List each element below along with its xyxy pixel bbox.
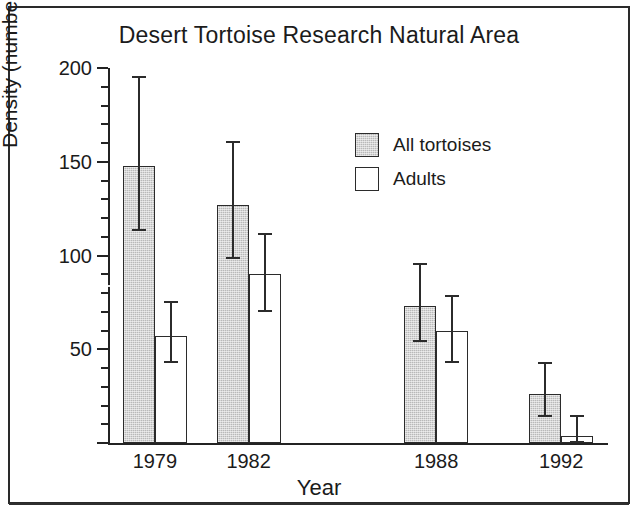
y-axis-minor-tick bbox=[101, 405, 108, 407]
error-bar-cap-upper bbox=[445, 295, 459, 297]
legend-item-adults: Adults bbox=[355, 162, 565, 196]
error-bar-line bbox=[264, 233, 266, 310]
y-axis-major-tick bbox=[97, 161, 108, 163]
legend-item-label: Adults bbox=[393, 168, 446, 190]
y-axis-minor-tick bbox=[101, 367, 108, 369]
y-axis-tick-label: 50 bbox=[70, 338, 92, 361]
error-bar-line bbox=[451, 295, 453, 361]
error-bar-cap-upper bbox=[413, 263, 427, 265]
error-bar-line bbox=[138, 76, 140, 230]
y-axis-minor-tick bbox=[101, 198, 108, 200]
y-axis-tick-label: 200 bbox=[59, 57, 92, 80]
error-bar-cap-lower bbox=[164, 361, 178, 363]
scan-artifact-line bbox=[108, 285, 608, 287]
chart-figure: Desert Tortoise Research Natural Area 50… bbox=[0, 0, 638, 514]
error-bar-cap-lower bbox=[538, 415, 552, 417]
chart-legend: All tortoisesAdults bbox=[355, 128, 565, 196]
error-bar-cap-upper bbox=[132, 76, 146, 78]
y-axis-major-tick bbox=[97, 255, 108, 257]
y-axis-minor-tick bbox=[101, 180, 108, 182]
error-bar-line bbox=[170, 301, 172, 361]
error-bar-line bbox=[576, 415, 578, 441]
error-bar-cap-upper bbox=[258, 233, 272, 235]
error-bar-cap-lower bbox=[132, 229, 146, 231]
error-bar-line bbox=[544, 362, 546, 415]
y-axis-major-tick bbox=[97, 442, 108, 444]
y-axis-minor-tick bbox=[101, 423, 108, 425]
y-axis-major-tick bbox=[97, 67, 108, 69]
y-axis-tick-label: 150 bbox=[59, 150, 92, 173]
y-axis-minor-tick bbox=[101, 273, 108, 275]
x-axis-tick-label: 1988 bbox=[414, 450, 459, 473]
y-axis-minor-tick bbox=[101, 217, 108, 219]
y-axis-minor-tick bbox=[101, 105, 108, 107]
x-axis-tick-label: 1992 bbox=[539, 450, 584, 473]
error-bar-cap-upper bbox=[538, 362, 552, 364]
y-axis-minor-tick bbox=[101, 142, 108, 144]
error-bar-cap-upper bbox=[226, 141, 240, 143]
chart-title: Desert Tortoise Research Natural Area bbox=[0, 22, 638, 49]
y-axis-minor-tick bbox=[101, 330, 108, 332]
y-axis-minor-tick bbox=[101, 292, 108, 294]
gray-hatched-swatch bbox=[355, 133, 379, 157]
y-axis-minor-tick bbox=[101, 86, 108, 88]
error-bar-cap-lower bbox=[258, 310, 272, 312]
legend-item-label: All tortoises bbox=[393, 134, 491, 156]
error-bar-cap-lower bbox=[570, 441, 584, 443]
y-axis-major-tick bbox=[97, 348, 108, 350]
error-bar-cap-upper bbox=[570, 415, 584, 417]
x-axis-tick-label: 1982 bbox=[226, 450, 271, 473]
plot-area: 50100150200 1979198219881992 bbox=[108, 60, 608, 445]
error-bar-cap-lower bbox=[445, 361, 459, 363]
legend-item-all-tortoises: All tortoises bbox=[355, 128, 565, 162]
y-axis-minor-tick bbox=[101, 311, 108, 313]
error-bar-cap-lower bbox=[226, 257, 240, 259]
error-bar-line bbox=[232, 141, 234, 257]
y-axis-minor-tick bbox=[101, 236, 108, 238]
x-axis-tick-label: 1979 bbox=[133, 450, 178, 473]
y-axis-minor-tick bbox=[101, 123, 108, 125]
x-axis-title: Year bbox=[0, 475, 638, 501]
error-bar-cap-lower bbox=[413, 340, 427, 342]
y-axis-tick-label: 100 bbox=[59, 244, 92, 267]
white-swatch bbox=[355, 167, 379, 191]
y-axis-line bbox=[108, 68, 110, 443]
error-bar-line bbox=[419, 263, 421, 340]
error-bar-cap-upper bbox=[164, 301, 178, 303]
y-axis-title: Density (number/km²) bbox=[0, 0, 22, 148]
x-axis-line bbox=[108, 443, 608, 445]
y-axis-minor-tick bbox=[101, 386, 108, 388]
